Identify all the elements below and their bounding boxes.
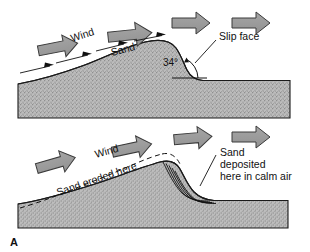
dune-diagram: Wind Sand 34° Slip face (0, 0, 310, 252)
label-sand-deposited-line2: deposited (220, 158, 266, 170)
figure-container: Wind Sand 34° Slip face (0, 0, 310, 252)
label-sand-deposited-line3: here in calm air (220, 170, 292, 182)
label-slip-face: Slip face (219, 30, 259, 42)
panel-letter-a: A (10, 236, 18, 248)
label-angle-34: 34° (163, 57, 178, 68)
label-sand-deposited-line1: Sand (220, 146, 245, 158)
